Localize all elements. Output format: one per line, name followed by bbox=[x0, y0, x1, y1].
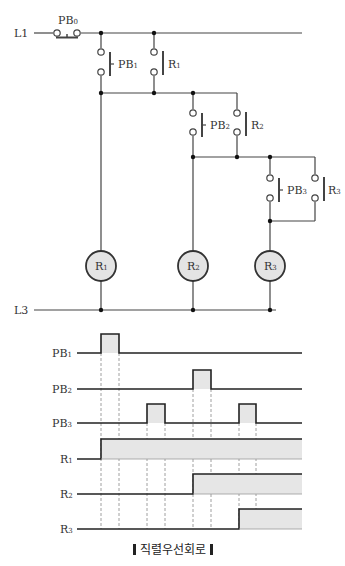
r2-contact-label: R2 bbox=[251, 119, 264, 132]
pb0-switch bbox=[54, 30, 80, 38]
timing-label-r1: R1 bbox=[60, 453, 73, 466]
r1-contact-label: R1 bbox=[168, 58, 181, 71]
l1-label: L1 bbox=[14, 27, 28, 40]
timing-label-pb3: PB3 bbox=[52, 417, 72, 430]
pb3-contact-label: PB3 bbox=[287, 184, 307, 197]
pb2-contact-label: PB2 bbox=[210, 119, 230, 132]
timing-waveforms bbox=[77, 334, 302, 529]
pb1-contact-label: PB1 bbox=[118, 58, 138, 71]
r3-contact-label: R3 bbox=[328, 184, 341, 197]
pb0-label: PB0 bbox=[58, 14, 78, 27]
wave-pb2 bbox=[77, 370, 302, 389]
caption-text: 직렬우선회로 bbox=[140, 543, 206, 557]
wave-pb3 bbox=[77, 404, 302, 423]
series-priority-circuit-diagram: PB0 L1 L3 PB1 R1 PB2 R2 PB3 R3 bbox=[0, 0, 345, 566]
caption-bar-right bbox=[210, 544, 213, 555]
timing-label-pb2: PB2 bbox=[52, 383, 72, 396]
relay-coils bbox=[86, 251, 285, 281]
timing-fills bbox=[101, 334, 302, 529]
figure-caption: 직렬우선회로 bbox=[0, 540, 345, 557]
diagram-svg: PB0 L1 L3 PB1 R1 PB2 R2 PB3 R3 bbox=[0, 0, 345, 566]
timing-label-r2: R2 bbox=[60, 488, 73, 501]
timing-label-r3: R3 bbox=[60, 523, 73, 536]
caption-bar-left bbox=[133, 544, 136, 555]
timing-label-pb1: PB1 bbox=[52, 347, 72, 360]
l3-label: L3 bbox=[14, 304, 28, 317]
